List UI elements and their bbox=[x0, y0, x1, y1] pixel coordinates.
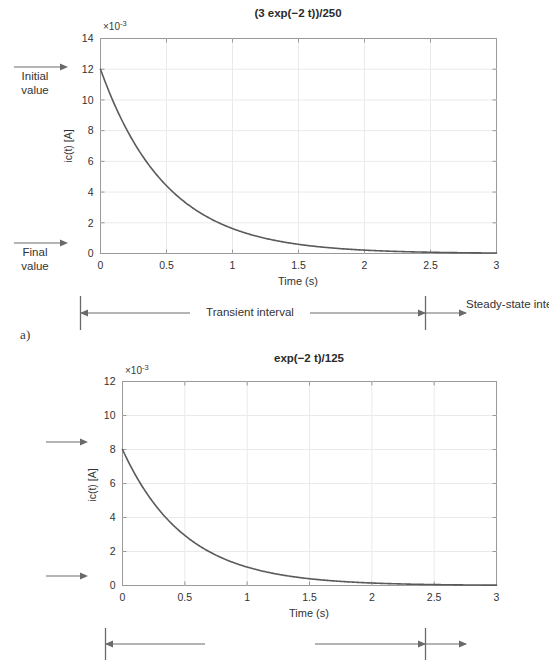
chart-b-x-axis-label: Time (s) bbox=[289, 607, 329, 619]
chart-a-canvas: 00.511.522.5302468101214 (3 exp(−2 t))/2… bbox=[0, 0, 549, 340]
a-ytick-label: 6 bbox=[88, 155, 94, 167]
b-ytick-label: 12 bbox=[104, 375, 116, 387]
b-xtick-label: 1 bbox=[244, 591, 250, 603]
chart-a-transient-interval-label: Transient interval bbox=[190, 306, 310, 320]
chart-b-final-value-arrow bbox=[46, 573, 88, 580]
chart-b-canvas: 00.511.522.53024681012 exp(−2 t)/125 ×10… bbox=[0, 340, 549, 671]
a-ytick-label: 8 bbox=[88, 124, 94, 136]
b-xtick-label: 1.5 bbox=[302, 591, 317, 603]
a-ytick-label: 2 bbox=[88, 217, 94, 229]
b-xtick-label: 0 bbox=[120, 591, 126, 603]
a-ytick-label: 12 bbox=[82, 63, 94, 75]
chart-a-initial-value-line-2: value bbox=[2, 84, 68, 98]
chart-a-x-axis-label: Time (s) bbox=[278, 275, 318, 287]
a-xtick-label: 2.5 bbox=[423, 259, 438, 271]
b-xtick-label: 0.5 bbox=[178, 591, 193, 603]
chart-a-initial-value-line-1: Initial bbox=[2, 70, 68, 84]
b-xtick-label: 3 bbox=[494, 591, 500, 603]
b-xtick-label: 2.5 bbox=[427, 591, 442, 603]
b-ytick-label: 6 bbox=[110, 477, 116, 489]
b-ytick-label: 0 bbox=[110, 579, 116, 591]
b-ytick-label: 4 bbox=[110, 511, 116, 523]
a-xtick-label: 1 bbox=[230, 259, 236, 271]
figure-panel-b: 00.511.522.53024681012 exp(−2 t)/125 ×10… bbox=[0, 340, 549, 671]
chart-a-y-axis-label: ic(t) [A] bbox=[62, 129, 74, 162]
a-xtick-label: 1.5 bbox=[291, 259, 306, 271]
b-ytick-label: 2 bbox=[110, 545, 116, 557]
chart-b-y-axis-label: ic(t) [A] bbox=[86, 468, 98, 501]
chart-a-steady-state-interval-label: Steady-state interval bbox=[466, 298, 548, 312]
b-ytick-label: 10 bbox=[104, 409, 116, 421]
chart-a-y-multiplier: ×10-3 bbox=[103, 19, 127, 32]
chart-a-title: (3 exp(−2 t))/250 bbox=[254, 7, 341, 19]
chart-b-title: exp(−2 t)/125 bbox=[274, 352, 345, 364]
chart-b-interval-band bbox=[105, 628, 467, 660]
a-ytick-label: 0 bbox=[88, 247, 94, 259]
b-xtick-label: 2 bbox=[369, 591, 375, 603]
b-ytick-label: 8 bbox=[110, 443, 116, 455]
a-ytick-label: 14 bbox=[82, 32, 94, 44]
chart-a-final-value-line-1: Final bbox=[2, 246, 68, 260]
a-xtick-label: 3 bbox=[494, 259, 500, 271]
chart-a-final-value-label: Final value bbox=[2, 246, 68, 273]
a-ytick-label: 4 bbox=[88, 186, 94, 198]
chart-b-y-multiplier: ×10-3 bbox=[125, 363, 149, 376]
figure-panel-a: 00.511.522.5302468101214 (3 exp(−2 t))/2… bbox=[0, 0, 549, 340]
a-xtick-label: 2 bbox=[362, 259, 368, 271]
chart-a-steady-state-line-1: Steady-state bbox=[466, 298, 531, 310]
chart-a-steady-state-line-2: interval bbox=[534, 298, 549, 310]
a-xtick-label: 0.5 bbox=[159, 259, 174, 271]
chart-a-final-value-line-2: value bbox=[2, 260, 68, 274]
a-ytick-label: 10 bbox=[82, 94, 94, 106]
chart-b-initial-value-arrow bbox=[46, 439, 88, 446]
chart-a-initial-value-label: Initial value bbox=[2, 70, 68, 97]
a-xtick-label: 0 bbox=[98, 259, 104, 271]
